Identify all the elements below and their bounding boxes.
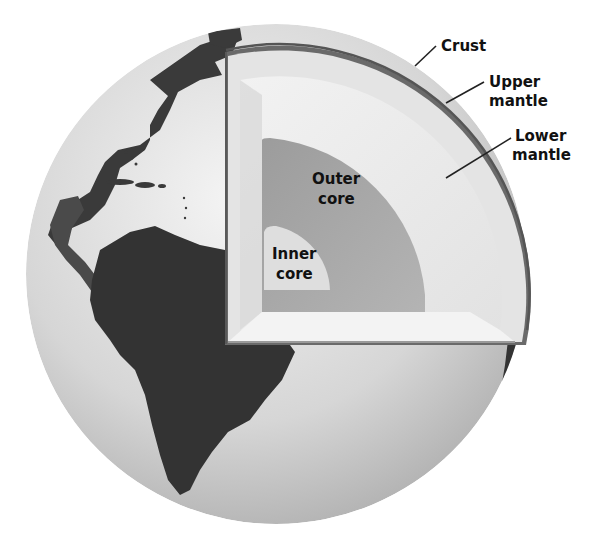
lower-mantle-label-line1: Lower [515, 127, 567, 145]
mantle-floor [228, 312, 515, 342]
earth-cutaway-diagram: Crust Upper mantle Lower mantle Outer co… [0, 0, 605, 534]
lower-mantle-label-line2: mantle [512, 146, 571, 164]
upper-mantle-label-line2: mantle [489, 92, 548, 110]
outer-core-label-line1: Outer [312, 170, 361, 188]
upper-mantle-label-line1: Upper [489, 73, 541, 91]
inner-core-label-line2: core [276, 265, 313, 283]
inner-core-label-line1: Inner [272, 245, 317, 263]
crust-leader [415, 46, 436, 66]
crust-label: Crust [441, 37, 486, 55]
upper-mantle-leader [446, 82, 484, 103]
outer-core-label-line2: core [318, 190, 355, 208]
cutaway [225, 44, 531, 345]
mantle-wall-shade [240, 80, 262, 330]
